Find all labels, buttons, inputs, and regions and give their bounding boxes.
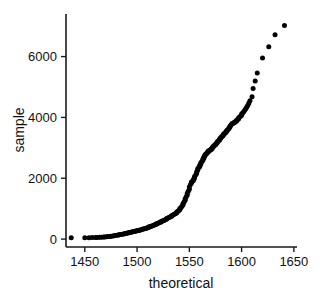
x-tick-label: 1650	[279, 254, 308, 269]
scatter-plot-canvas: 14501500155016001650 0200040006000 theor…	[0, 0, 320, 301]
x-tick-label: 1500	[123, 254, 152, 269]
y-tick-label: 6000	[28, 49, 57, 64]
data-point	[253, 78, 258, 83]
y-tick-label: 4000	[28, 110, 57, 125]
y-tick-label: 2000	[28, 171, 57, 186]
x-axis-ticks: 14501500155016001650	[70, 247, 308, 269]
y-tick-label: 0	[50, 232, 57, 247]
plot-area-background	[66, 14, 297, 247]
x-tick-label: 1600	[227, 254, 256, 269]
data-point	[273, 32, 278, 37]
data-point	[282, 23, 287, 28]
qq-plot-figure: 14501500155016001650 0200040006000 theor…	[0, 0, 320, 301]
data-point	[266, 44, 271, 49]
y-axis-ticks: 0200040006000	[28, 49, 66, 247]
y-axis-title: sample	[11, 107, 27, 152]
x-tick-label: 1450	[70, 254, 99, 269]
data-point	[255, 71, 260, 76]
data-point	[260, 56, 265, 61]
data-point	[251, 86, 256, 91]
data-point	[69, 235, 74, 240]
x-tick-label: 1550	[175, 254, 204, 269]
x-axis-title: theoretical	[149, 275, 214, 291]
data-point	[250, 94, 255, 99]
